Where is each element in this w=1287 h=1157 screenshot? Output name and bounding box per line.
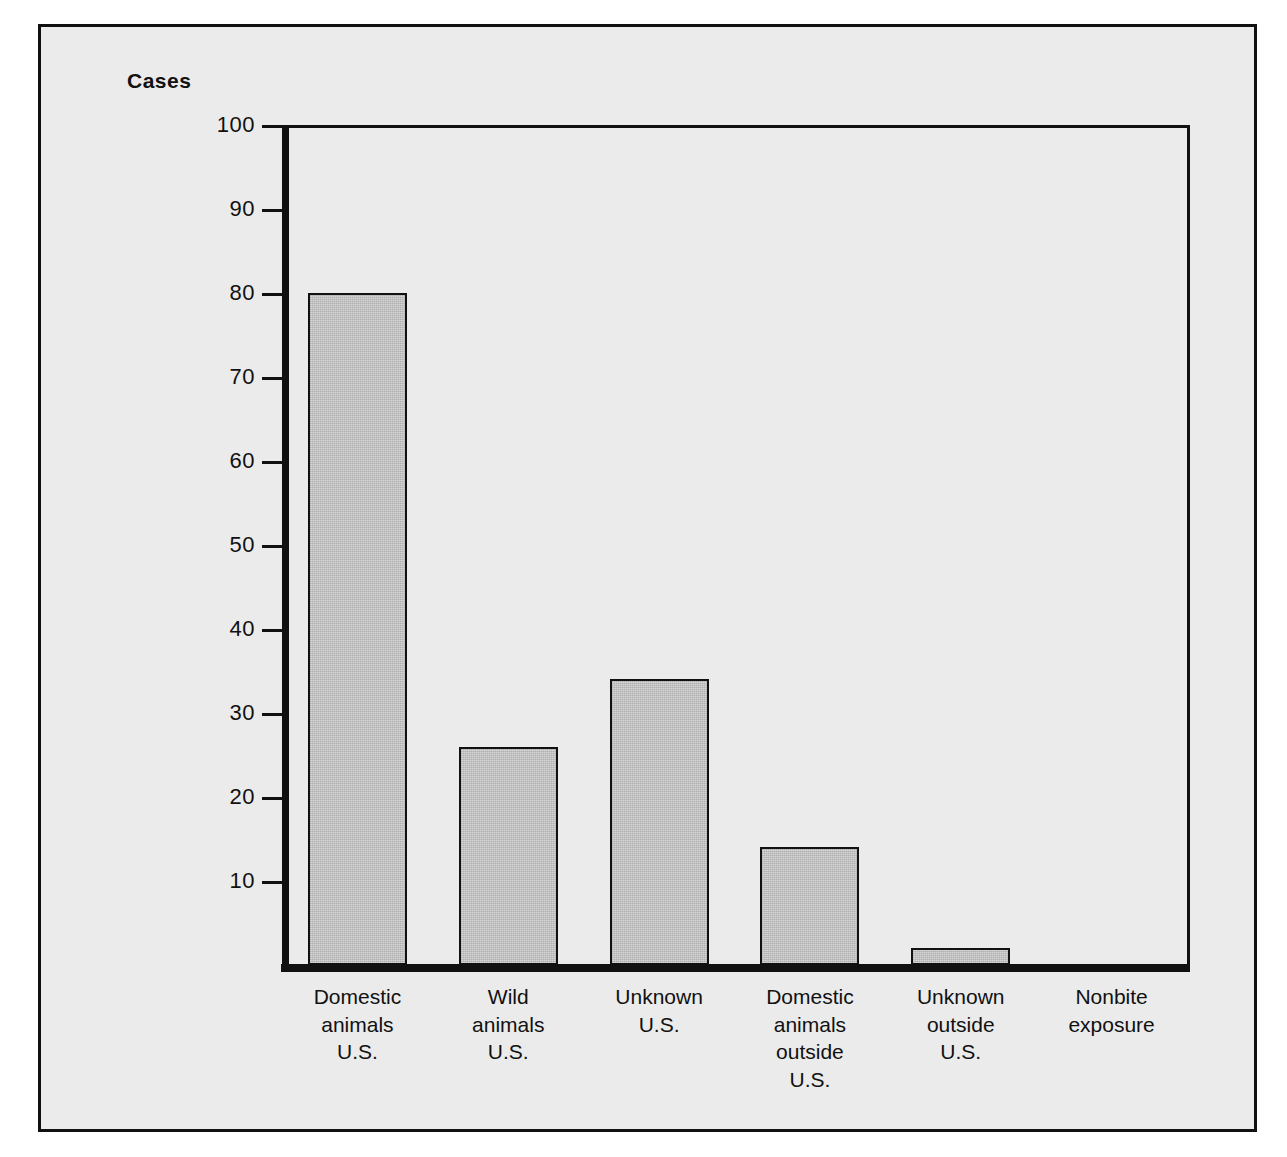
bar-1 [308,293,407,965]
y-tick-label: 60 [230,448,255,474]
plot-area: 102030405060708090100 Domestic animals U… [285,125,1190,965]
y-tick-mark [262,545,282,548]
bar-4 [760,847,859,965]
y-axis-line [282,125,289,965]
category-label-1: Domestic animals U.S. [282,983,433,1066]
category-label-6: Nonbite exposure [1036,983,1187,1038]
figure-frame: Cases 102030405060708090100 Domestic ani… [38,24,1257,1132]
y-tick-mark [262,881,282,884]
y-tick-mark [262,629,282,632]
y-tick-label: 20 [230,784,255,810]
y-tick-mark [262,797,282,800]
y-tick-label: 100 [217,112,255,138]
plot-right-border [1187,125,1190,965]
bar-3 [610,679,709,965]
category-label-2: Wild animals U.S. [433,983,584,1066]
y-tick-mark [262,377,282,380]
bar-5 [911,948,1010,965]
bar-2 [459,747,558,965]
x-axis-line [281,964,1190,972]
y-tick-label: 90 [230,196,255,222]
y-tick-mark [262,293,282,296]
y-tick-mark [262,125,282,128]
category-label-4: Domestic animals outside U.S. [735,983,886,1094]
y-tick-label: 40 [230,616,255,642]
y-tick-mark [262,713,282,716]
y-tick-label: 70 [230,364,255,390]
category-label-5: Unknown outside U.S. [885,983,1036,1066]
y-tick-label: 80 [230,280,255,306]
y-tick-mark [262,461,282,464]
y-axis-caption: Cases [127,69,191,93]
y-tick-mark [262,209,282,212]
category-label-3: Unknown U.S. [584,983,735,1038]
y-tick-label: 30 [230,700,255,726]
y-tick-label: 50 [230,532,255,558]
y-tick-label: 10 [230,868,255,894]
plot-top-border [285,125,1190,128]
